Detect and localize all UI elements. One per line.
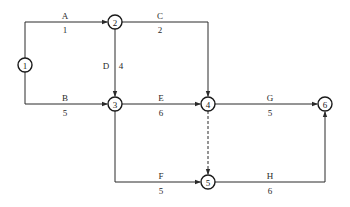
activity-f-name: F [158, 171, 163, 181]
activity-b-duration: 5 [63, 108, 68, 118]
node-3: 3 [108, 97, 122, 111]
activity-h: H 6 [215, 112, 325, 196]
node-6: 6 [318, 97, 332, 111]
activity-h-duration: 6 [268, 186, 273, 196]
node-6-label: 6 [323, 100, 328, 110]
node-4: 4 [201, 97, 215, 111]
activity-e: E 6 [122, 93, 200, 118]
activity-c-duration: 2 [158, 25, 163, 35]
node-2: 2 [108, 15, 122, 29]
activity-g-name: G [267, 93, 274, 103]
activity-b: B 5 [25, 72, 107, 118]
node-1-label: 1 [23, 61, 28, 71]
activity-a-name: A [62, 11, 69, 21]
activity-e-duration: 6 [159, 108, 164, 118]
activity-f: F 5 [115, 111, 200, 196]
activity-g-duration: 5 [268, 108, 273, 118]
activity-f-duration: 5 [159, 186, 164, 196]
activity-d-duration: 4 [119, 61, 124, 71]
activity-d: D 4 [103, 29, 124, 96]
activity-g: G 5 [215, 93, 317, 118]
activity-e-name: E [158, 93, 164, 103]
node-3-label: 3 [113, 100, 118, 110]
network-diagram: A 1 B 5 C 2 D 4 E 6 F 5 G 5 H 6 [0, 0, 350, 207]
activity-b-name: B [62, 93, 68, 103]
node-1: 1 [18, 58, 32, 72]
node-4-label: 4 [206, 100, 211, 110]
activity-h-name: H [267, 171, 274, 181]
activity-c: C 2 [122, 11, 208, 96]
activity-d-name: D [103, 61, 110, 71]
activity-a-duration: 1 [63, 25, 68, 35]
node-5-label: 5 [206, 178, 211, 188]
node-2-label: 2 [113, 18, 118, 28]
node-5: 5 [201, 175, 215, 189]
activity-a: A 1 [25, 11, 107, 58]
activity-c-name: C [157, 11, 163, 21]
